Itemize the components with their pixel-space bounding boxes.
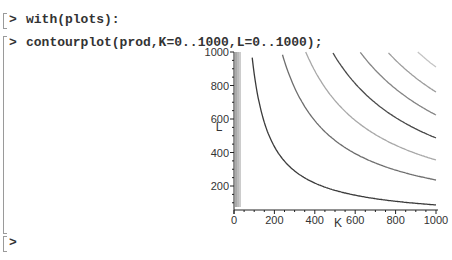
contour-line — [333, 53, 436, 138]
y-tick-label: 200 — [211, 180, 229, 192]
contour-line — [252, 58, 436, 205]
x-tick-label: 600 — [346, 214, 364, 226]
x-tick-label: 400 — [306, 214, 324, 226]
contour-line — [306, 52, 436, 160]
x-tick-label: 0 — [231, 214, 237, 226]
x-tick-label: 1000 — [424, 214, 448, 226]
contour-line — [389, 53, 437, 92]
contour-line — [418, 52, 436, 67]
contour-plot[interactable]: 020040060080010002004006008001000KL — [0, 0, 452, 260]
x-tick-label: 200 — [265, 214, 283, 226]
execution-group-bracket — [3, 236, 7, 252]
y-tick-label: 400 — [211, 147, 229, 159]
y-axis-label: L — [216, 120, 223, 134]
contour-line — [283, 55, 437, 180]
empty-prompt[interactable]: > — [9, 235, 17, 250]
x-axis-label: K — [334, 216, 342, 230]
x-tick-label: 800 — [386, 214, 404, 226]
y-tick-label: 800 — [211, 80, 229, 92]
y-tick-label: 1000 — [205, 46, 229, 58]
maple-worksheet: > with(plots): > contourplot(prod,K=0..1… — [0, 0, 452, 260]
